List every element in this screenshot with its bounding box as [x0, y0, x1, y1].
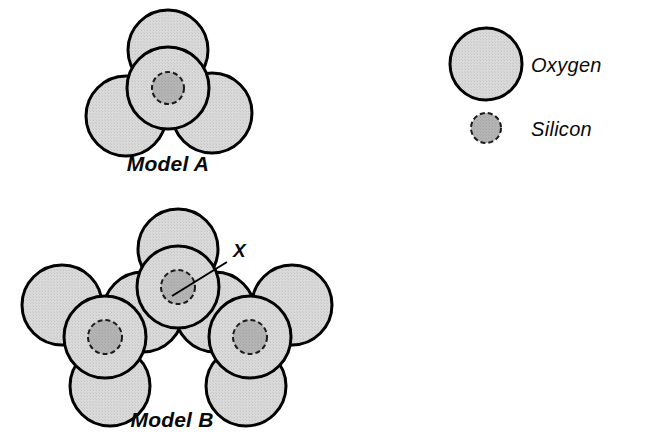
model-a-group: Model A [86, 10, 252, 175]
legend-item-oxygen: Oxygen [450, 28, 602, 100]
oxygen-legend-swatch-icon [450, 28, 522, 100]
silicon-atom [233, 320, 267, 354]
silicon-atom [88, 320, 122, 354]
silicate-models-figure: Model A [0, 0, 655, 446]
model-a-label: Model A [127, 152, 209, 175]
model-b-center-oxygens [64, 246, 291, 378]
x-point-label: X [232, 240, 247, 261]
atom-key-legend: Oxygen Silicon [450, 28, 602, 143]
model-b-label: Model B [130, 408, 213, 431]
legend-item-silicon: Silicon [471, 113, 592, 143]
silicon-atom [152, 72, 184, 104]
silicon-atom [161, 270, 195, 304]
model-a-silicon [152, 72, 184, 104]
silicon-legend-swatch-icon [471, 113, 501, 143]
diagram-canvas: Model A [0, 0, 655, 446]
model-b-group: X Model B [22, 209, 332, 431]
legend-label-oxygen: Oxygen [531, 54, 602, 76]
legend-label-silicon: Silicon [531, 118, 592, 140]
